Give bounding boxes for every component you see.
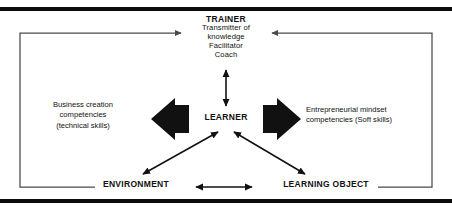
left-competencies-label: Business creation competencies (technica… <box>27 100 139 131</box>
node-learning-object: LEARNING OBJECT <box>266 179 386 189</box>
left-competencies-line-2: (technical skills) <box>27 121 139 131</box>
node-environment: ENVIRONMENT <box>82 179 190 189</box>
learner-learning-object-arrow <box>234 132 305 174</box>
node-trainer: TRAINER Transmitter of knowledge Facilit… <box>166 14 286 60</box>
node-learner-heading: LEARNER <box>180 112 272 122</box>
node-trainer-role-3: Coach <box>166 51 286 60</box>
left-competencies-line-0: Business creation <box>27 100 139 110</box>
right-competencies-line-0: Entrepreneurial mindset <box>306 105 448 115</box>
node-environment-heading: ENVIRONMENT <box>82 179 190 189</box>
left-competencies-line-1: competencies <box>27 110 139 120</box>
node-learner: LEARNER <box>180 112 272 122</box>
diagram-canvas: TRAINER Transmitter of knowledge Facilit… <box>0 0 452 211</box>
right-competencies-label: Entrepreneurial mindset competencies (So… <box>306 105 448 126</box>
right-competencies-line-1: competencies (Soft skills) <box>306 115 448 125</box>
node-learning-object-heading: LEARNING OBJECT <box>266 179 386 189</box>
learner-environment-arrow <box>143 132 218 174</box>
